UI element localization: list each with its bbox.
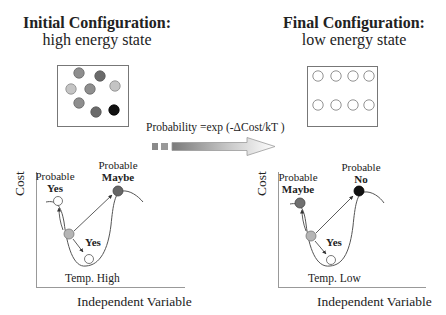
initial-config-particle xyxy=(74,98,84,108)
right-x-axis-label: Independent Variable xyxy=(317,294,432,310)
left-x-axis-label: Independent Variable xyxy=(77,294,192,310)
left-downhill-label: Yes xyxy=(85,236,101,248)
final-config-particle xyxy=(364,100,374,110)
right-temperature-label: Temp. Low xyxy=(308,272,361,284)
initial-config-particle xyxy=(110,81,120,91)
left-temperature-label: Temp. High xyxy=(65,272,120,284)
initial-config-particle xyxy=(91,107,101,117)
right-uphill-left-label-line1: Probable xyxy=(278,171,317,183)
left-uphill-left-label-line1: Probable xyxy=(35,170,74,182)
right-downhill-label-text: Yes xyxy=(326,236,342,248)
arrow-body xyxy=(172,138,275,156)
right-downhill-label: Yes xyxy=(326,236,342,248)
right-uphill-left-label-line2: Maybe xyxy=(282,183,314,195)
final-config-particle xyxy=(313,71,323,81)
initial-config-particle xyxy=(66,84,76,94)
left-uphill-right-label-line1: Probable xyxy=(98,159,137,171)
final-config-particle xyxy=(348,71,358,81)
left-uphill-right-label: Probable Maybe xyxy=(92,159,144,183)
left-arrow-downhill xyxy=(73,239,83,252)
right-arrow-downhill xyxy=(315,241,326,254)
right-uphill-right-label: Probable No xyxy=(336,161,386,185)
left-downhill-label-text: Yes xyxy=(85,236,101,248)
left-point-uphill-left xyxy=(54,197,63,206)
right-point-uphill-left xyxy=(295,198,305,208)
final-config-particle xyxy=(331,71,341,81)
left-point-uphill-right xyxy=(113,186,123,196)
left-y-axis-label: Cost xyxy=(12,171,28,196)
right-uphill-left-label: Probable Maybe xyxy=(271,171,325,195)
arrow-square-1 xyxy=(152,143,158,150)
transition-arrow xyxy=(152,138,275,156)
final-config-box xyxy=(308,67,378,127)
left-uphill-left-label-line2: Yes xyxy=(47,182,63,194)
initial-config-particle xyxy=(74,68,84,78)
left-point-downhill xyxy=(85,255,94,264)
initial-config-particle xyxy=(109,105,119,115)
right-arrow-to-no xyxy=(316,196,353,233)
final-config-particle xyxy=(313,100,323,110)
right-point-current xyxy=(306,231,316,241)
diagram-canvas xyxy=(0,0,446,315)
final-config-particle xyxy=(331,100,341,110)
left-uphill-right-label-line2: Maybe xyxy=(102,171,134,183)
arrow-square-2 xyxy=(161,143,168,150)
initial-config-particle xyxy=(85,84,95,94)
right-uphill-right-label-line1: Probable xyxy=(341,161,380,173)
right-point-uphill-right xyxy=(354,186,364,196)
left-uphill-left-label: Probable Yes xyxy=(30,170,80,194)
final-config-particle xyxy=(348,100,358,110)
left-point-current xyxy=(64,229,74,239)
final-config-particle xyxy=(364,71,374,81)
left-arrow-to-maybe xyxy=(74,195,112,231)
right-point-downhill xyxy=(327,256,336,265)
right-uphill-right-label-line2: No xyxy=(354,173,367,185)
initial-config-particle xyxy=(95,71,105,81)
initial-config-box xyxy=(58,66,129,127)
right-y-axis-label: Cost xyxy=(254,171,270,196)
probability-formula: Probability =exp (-ΔCost/kT ) xyxy=(146,121,285,133)
